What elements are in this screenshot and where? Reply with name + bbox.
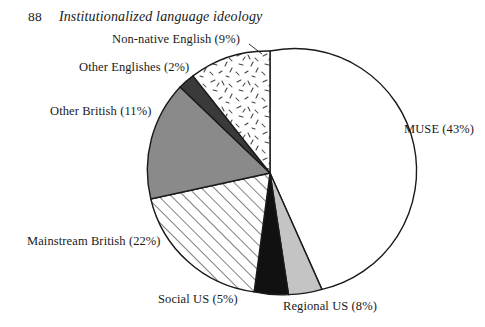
pie-label-other-englishes: Other Englishes (2%) <box>79 60 189 75</box>
pie-label-muse: MUSE (43%) <box>404 122 474 137</box>
pie-label-regional-us: Regional US (8%) <box>283 299 377 314</box>
pie-chart <box>0 0 485 327</box>
pie-label-non-native-english: Non-native English (9%) <box>112 32 240 47</box>
pie-label-social-us: Social US (5%) <box>158 292 238 307</box>
pie-chart-figure: Non-native English (9%) Other Englishes … <box>0 0 485 327</box>
book-page: 88 Institutionalized language ideology <box>0 0 485 327</box>
pie-slices <box>147 48 416 294</box>
pie-label-other-british: Other British (11%) <box>50 104 151 119</box>
pie-label-mainstream-british: Mainstream British (22%) <box>27 234 161 249</box>
